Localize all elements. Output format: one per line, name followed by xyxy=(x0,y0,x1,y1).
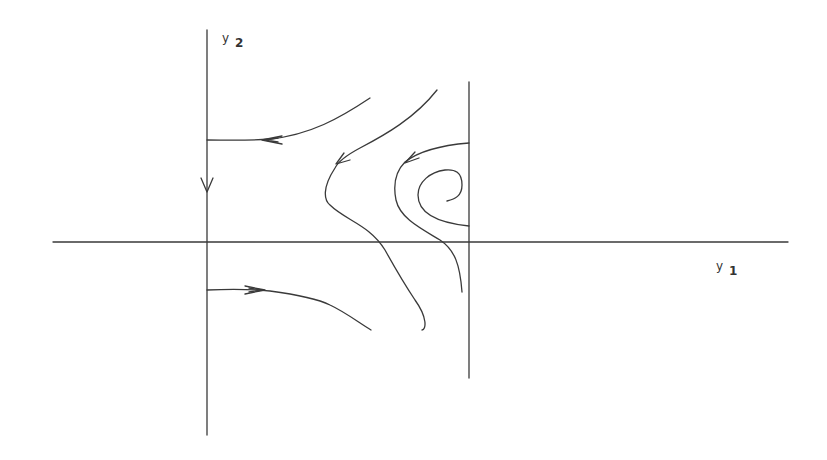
trajectory-spiral xyxy=(418,170,469,226)
y2-axis-label: y2 xyxy=(222,32,243,44)
trajectory-lower-left-arc xyxy=(207,289,371,330)
trajectory-upper-left-arc xyxy=(207,98,370,140)
y1-axis-label-subscript: 1 xyxy=(729,264,737,278)
y1-axis-label-symbol: y xyxy=(716,259,723,273)
phase-portrait-diagram xyxy=(0,0,827,460)
y2-axis-label-subscript: 2 xyxy=(235,36,243,50)
trajectory-middle-hyperbola xyxy=(325,90,437,330)
trajectory-inner-hyperbola xyxy=(395,143,469,292)
y1-axis-label: y1 xyxy=(716,260,737,272)
y2-axis-label-symbol: y xyxy=(222,31,229,45)
